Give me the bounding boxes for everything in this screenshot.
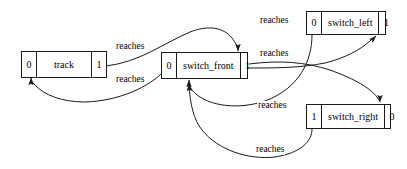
node-switch-left-right-port[interactable]: 1: [379, 12, 393, 34]
node-switch-right-left-port[interactable]: 1: [307, 105, 321, 128]
node-track-label: track: [36, 52, 92, 77]
node-switch-left[interactable]: 0 switch_left 1: [306, 11, 386, 35]
edge-label-front-to-right: reaches: [255, 145, 285, 155]
node-switch-left-label: switch_left: [321, 12, 379, 34]
edge-label-right-to-front: reaches: [257, 101, 287, 111]
node-track-right-port[interactable]: 1: [92, 52, 106, 77]
node-switch-left-left-port[interactable]: 0: [307, 12, 321, 34]
edge-label-left-to-front: reaches: [259, 16, 289, 26]
edge-label-front-to-left: reaches: [259, 49, 289, 59]
node-switch-right-right-port[interactable]: 0: [385, 105, 399, 128]
edge-right-to-front: [189, 84, 312, 158]
node-switch-front-label: switch_front: [176, 53, 241, 78]
node-switch-front-left-port[interactable]: 0: [162, 53, 176, 78]
diagram-canvas: 0 track 1 0 switch_front 1 0 switch_left…: [0, 0, 407, 169]
node-switch-front[interactable]: 0 switch_front 1: [161, 52, 248, 79]
node-track[interactable]: 0 track 1: [21, 51, 107, 78]
node-switch-right[interactable]: 1 switch_right 0: [306, 104, 391, 129]
node-switch-front-right-port[interactable]: 1: [241, 53, 255, 78]
node-track-left-port[interactable]: 0: [22, 52, 36, 77]
edge-label-track-to-front: reaches: [115, 42, 145, 52]
edge-label-front-to-track: reaches: [115, 75, 145, 85]
node-switch-right-label: switch_right: [321, 105, 385, 128]
